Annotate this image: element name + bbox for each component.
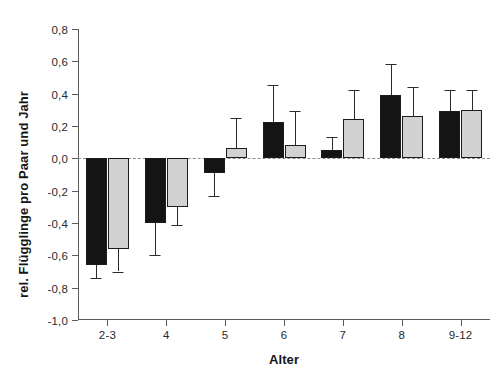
y-tick: -0,2	[72, 191, 78, 192]
y-tick-label: 0,0	[51, 153, 68, 165]
error-bar-stem	[391, 64, 392, 96]
error-bar-stem	[354, 90, 355, 118]
x-tick-label: 6	[281, 329, 288, 341]
bar-chart: rel. Flügglinge pro Paar und Jahr 0,80,6…	[0, 0, 504, 389]
y-tick: -0,4	[72, 223, 78, 224]
bar	[263, 122, 284, 158]
bar	[204, 158, 225, 173]
x-tick	[107, 320, 108, 326]
y-tick-label: 0,4	[51, 89, 68, 101]
y-tick: -0,8	[72, 288, 78, 289]
x-tick-label: 9-12	[449, 329, 473, 341]
y-axis-title: rel. Flügglinge pro Paar und Jahr	[0, 0, 46, 389]
bar	[343, 119, 364, 159]
y-tick: 0,0	[72, 158, 78, 159]
error-bar-cap	[150, 255, 161, 256]
y-tick: 0,4	[72, 94, 78, 95]
error-bar-stem	[177, 207, 178, 225]
x-tick	[461, 320, 462, 326]
error-bar-cap	[466, 90, 477, 91]
error-bar-stem	[413, 87, 414, 116]
y-tick: -1,0	[72, 320, 78, 321]
y-tick-label: -0,4	[47, 218, 68, 230]
y-tick: -0,6	[72, 255, 78, 256]
y-tick: 0,6	[72, 61, 78, 62]
error-bar-cap	[348, 90, 359, 91]
error-bar-cap	[209, 196, 220, 197]
x-tick-label: 4	[163, 329, 170, 341]
y-tick-label: -1,0	[47, 315, 68, 327]
bar	[167, 158, 188, 207]
plot-area: 0,80,60,40,20,0-0,2-0,4-0,6-0,8-1,0 2-34…	[78, 29, 490, 320]
error-bar-stem	[236, 118, 237, 148]
x-tick	[402, 320, 403, 326]
x-tick-label: 7	[340, 329, 347, 341]
y-tick-label: 0,2	[51, 121, 68, 133]
y-tick-label: 0,8	[51, 24, 68, 36]
error-bar-cap	[290, 111, 301, 112]
bar	[108, 158, 129, 249]
bar	[226, 148, 247, 159]
error-bar-cap	[407, 87, 418, 88]
error-bar-cap	[172, 225, 183, 226]
error-bar-stem	[118, 249, 119, 272]
error-bar-stem	[472, 90, 473, 109]
y-tick-label: -0,2	[47, 186, 68, 198]
bar	[86, 158, 107, 265]
error-bar-cap	[91, 278, 102, 279]
y-tick-label: -0,6	[47, 250, 68, 262]
error-bar-cap	[231, 118, 242, 119]
error-bar-stem	[450, 90, 451, 112]
x-tick-label: 2-3	[99, 329, 116, 341]
bar	[461, 110, 482, 159]
error-bar-cap	[385, 64, 396, 65]
y-tick-label: -0,8	[47, 283, 68, 295]
error-bar-stem	[155, 223, 156, 255]
bar	[402, 116, 423, 158]
y-tick-label: 0,6	[51, 56, 68, 68]
error-bar-stem	[214, 173, 215, 196]
x-tick-label: 8	[398, 329, 405, 341]
x-tick	[166, 320, 167, 326]
error-bar-cap	[326, 137, 337, 138]
bar	[145, 158, 166, 223]
x-tick-label: 5	[222, 329, 229, 341]
bar	[285, 145, 306, 159]
error-bar-stem	[332, 137, 333, 151]
error-bar-cap	[113, 272, 124, 273]
error-bar-cap	[268, 85, 279, 86]
bar	[439, 111, 460, 158]
y-tick: 0,2	[72, 126, 78, 127]
y-tick: 0,8	[72, 29, 78, 30]
axis-frame	[78, 29, 490, 320]
error-bar-stem	[96, 265, 97, 278]
bar	[380, 95, 401, 158]
x-tick	[225, 320, 226, 326]
bar	[321, 150, 342, 158]
x-tick	[284, 320, 285, 326]
error-bar-stem	[273, 85, 274, 122]
zero-reference-line	[78, 158, 490, 159]
error-bar-stem	[295, 111, 296, 144]
error-bar-cap	[444, 90, 455, 91]
x-tick	[343, 320, 344, 326]
x-axis-title: Alter	[78, 352, 490, 367]
